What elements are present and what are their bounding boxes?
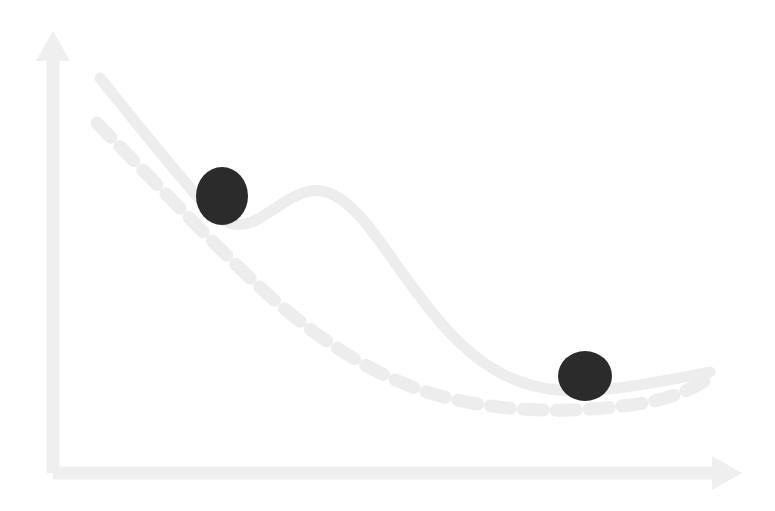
- non-convex-loss-curve: [100, 78, 710, 391]
- x-axis-arrowhead-icon: [712, 456, 742, 490]
- optimization-diagram-canvas: Optimization landscape with local and gl…: [0, 0, 775, 511]
- diagram-svg: [0, 0, 775, 511]
- global-minimum-ball: [558, 351, 612, 401]
- y-axis-arrowhead-icon: [36, 31, 70, 61]
- local-minimum-ball: [196, 167, 248, 225]
- curves-group: [97, 78, 712, 410]
